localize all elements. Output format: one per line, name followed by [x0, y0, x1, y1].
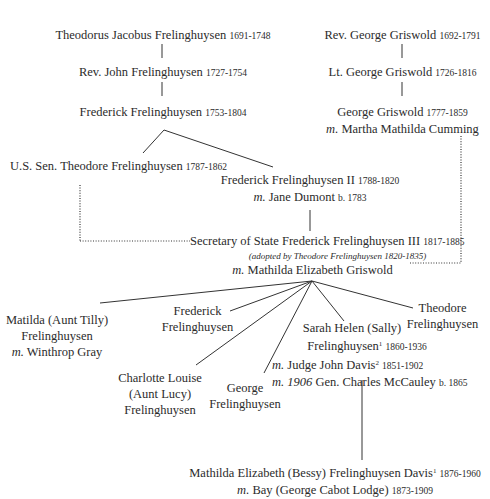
- person-george-griswold: George Griswold 1777-1859 m. Martha Math…: [300, 104, 490, 137]
- child-frederick: Frederick Frelinghuysen: [160, 303, 235, 335]
- connector-line: [312, 281, 413, 308]
- person-frederick: Frederick Frelinghuysen 1753-1804: [28, 104, 298, 121]
- person-rev-george-griswold: Rev. George Griswold 1692-1791: [300, 27, 490, 44]
- connector-line: [143, 130, 164, 153]
- adoption-note: (adopted by Theodore Frelinghuysen 1820-…: [190, 250, 435, 262]
- child-matilda: Matilda (Aunt Tilly) Frelinghuysen m. Wi…: [2, 312, 112, 360]
- person-rev-john: Rev. John Frelinghuysen 1727-1754: [28, 64, 298, 81]
- child-theodore: Theodore Frelinghuysen: [400, 300, 485, 332]
- person-frederick-ii: Frederick Frelinghuysen II 1788-1820 m. …: [200, 172, 420, 206]
- connector-line: [312, 281, 344, 321]
- grandchild-bessy: Mathilda Elizabeth (Bessy) Frelinghuysen…: [180, 463, 490, 499]
- person-theodorus-jacobus: Theodorus Jacobus Frelinghuysen 1691-174…: [28, 27, 298, 44]
- connector-line: [100, 281, 312, 303]
- child-charlotte: Charlotte Louise (Aunt Lucy) Frelinghuys…: [110, 370, 210, 418]
- person-lt-george-griswold: Lt. George Griswold 1726-1816: [300, 64, 490, 81]
- person-frederick-iii: Secretary of State Frederick Frelinghuys…: [190, 233, 435, 278]
